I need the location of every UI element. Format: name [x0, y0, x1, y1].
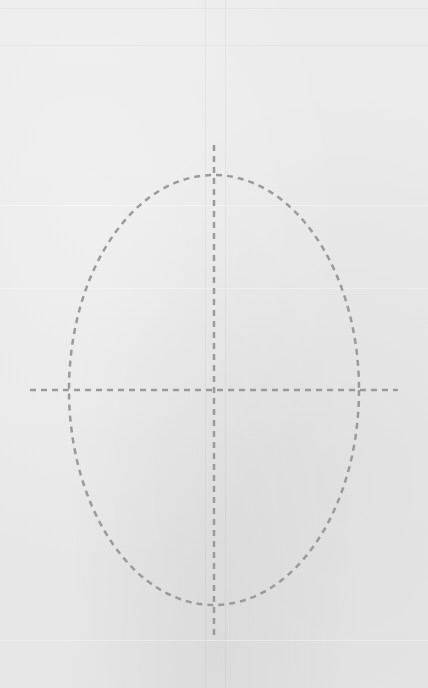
- oval-guide-drawing: [0, 0, 428, 688]
- drawing-canvas: [0, 0, 428, 688]
